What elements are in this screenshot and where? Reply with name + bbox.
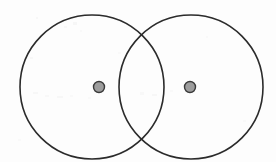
figure-canvas: Two overlapping circles with marked cent… bbox=[0, 0, 276, 162]
left-circle bbox=[20, 15, 164, 159]
venn-diagram-svg: Two overlapping circles with marked cent… bbox=[0, 0, 276, 162]
right-center-dot bbox=[185, 82, 196, 93]
left-center-dot bbox=[94, 82, 105, 93]
